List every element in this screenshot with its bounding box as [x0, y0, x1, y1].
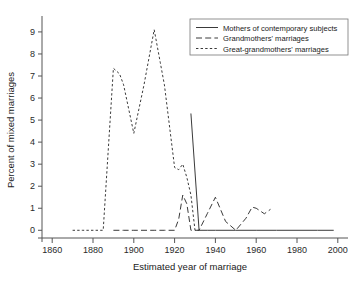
y-tick-label: 5	[30, 115, 35, 125]
y-tick-label: 7	[30, 71, 35, 81]
x-tick-label: 1900	[124, 245, 144, 255]
y-tick-label: 2	[30, 181, 35, 191]
x-tick-label: 1860	[42, 245, 62, 255]
y-tick-label: 8	[30, 49, 35, 59]
x-tick-label: 1920	[165, 245, 185, 255]
y-tick-label: 9	[30, 27, 35, 37]
legend-label-2: Grandmothers' marriages	[223, 34, 309, 43]
x-tick-label: 1980	[287, 245, 307, 255]
x-tick-label: 2000	[328, 245, 348, 255]
series-line-2	[113, 195, 270, 230]
x-tick-label: 1880	[83, 245, 103, 255]
y-axis: 0123456789	[30, 16, 42, 242]
chart-legend: Mothers of contemporary subjectsGrandmot…	[190, 19, 348, 55]
line-chart: 0123456789 18601880190019201940196019802…	[0, 0, 357, 282]
y-tick-label: 3	[30, 159, 35, 169]
x-tick-label: 1960	[246, 245, 266, 255]
y-tick-label: 6	[30, 93, 35, 103]
legend-label-1: Mothers of contemporary subjects	[223, 24, 338, 33]
series-line-3	[73, 30, 199, 231]
x-axis-title: Estimated year of marriage	[133, 261, 247, 272]
legend-label-3: Great-grandmothers' marriages	[223, 45, 329, 54]
y-axis-title: Percent of mixed marriages	[5, 72, 16, 188]
x-tick-label: 1940	[205, 245, 225, 255]
data-series-group	[73, 30, 334, 231]
y-tick-label: 1	[30, 203, 35, 213]
x-axis: 18601880190019201940196019802000	[38, 238, 348, 255]
y-tick-label: 0	[30, 225, 35, 235]
chart-figure: 0123456789 18601880190019201940196019802…	[0, 0, 357, 282]
y-tick-label: 4	[30, 137, 35, 147]
